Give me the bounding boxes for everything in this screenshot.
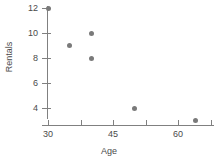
data-point	[46, 6, 51, 11]
y-tick-label-10: 10	[16, 29, 38, 38]
y-tick-10	[42, 33, 51, 34]
data-point	[193, 118, 198, 123]
x-axis-title: Age	[0, 146, 218, 156]
y-tick-label-12: 12	[16, 4, 38, 13]
data-point	[89, 56, 94, 61]
y-tick-6	[42, 83, 51, 84]
x-tick-37.5	[81, 120, 82, 126]
data-point	[89, 31, 94, 36]
x-tick-45	[113, 120, 114, 126]
scatter-plot: 4681012 304560 Rentals Age	[0, 0, 218, 167]
x-tick-67.5	[211, 120, 212, 126]
x-tick-60	[178, 120, 179, 126]
x-tick-label-45: 45	[101, 130, 125, 139]
x-tick-label-60: 60	[166, 130, 190, 139]
x-tick-30	[48, 120, 49, 126]
data-point	[132, 106, 137, 111]
x-axis-line	[42, 125, 214, 126]
x-tick-52.5	[146, 120, 147, 126]
y-tick-label-4: 4	[16, 104, 38, 113]
x-tick-label-30: 30	[36, 130, 60, 139]
y-axis-title: Rentals	[4, 28, 14, 86]
y-tick-label-8: 8	[16, 54, 38, 63]
y-tick-8	[42, 58, 51, 59]
y-tick-label-6: 6	[16, 79, 38, 88]
data-point	[67, 43, 72, 48]
y-axis-line	[47, 6, 48, 119]
y-tick-4	[42, 108, 51, 109]
